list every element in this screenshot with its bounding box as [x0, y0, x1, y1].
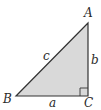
triangle-shape: [16, 23, 88, 96]
vertex-label-c: C: [84, 96, 93, 110]
side-label-c: c: [43, 49, 50, 63]
side-label-b: b: [91, 53, 99, 67]
right-triangle-diagram: A B C c b a: [0, 0, 101, 110]
side-label-a: a: [49, 96, 56, 110]
vertex-label-b: B: [2, 92, 12, 106]
vertex-label-a: A: [83, 6, 93, 20]
